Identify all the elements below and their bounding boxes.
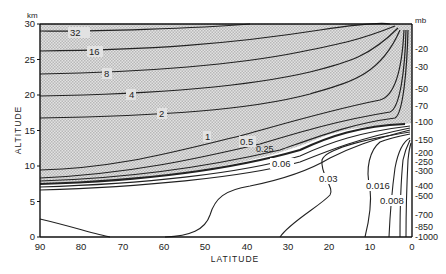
svg-text:80: 80 bbox=[76, 241, 87, 252]
svg-text:-400: -400 bbox=[415, 181, 433, 191]
y-unit-mb: mb bbox=[415, 16, 427, 25]
svg-text:-20: -20 bbox=[415, 44, 428, 54]
svg-text:15: 15 bbox=[24, 125, 35, 136]
x-axis-labels: 90 80 70 60 50 40 30 20 10 0 bbox=[35, 241, 415, 252]
contour-label: 0.5 bbox=[240, 136, 253, 147]
contour-label: 8 bbox=[104, 68, 109, 79]
svg-text:-30: -30 bbox=[415, 62, 428, 72]
contour-label: 1 bbox=[205, 131, 210, 142]
contour-label: 16 bbox=[89, 46, 100, 57]
svg-text:60: 60 bbox=[159, 241, 170, 252]
svg-text:25: 25 bbox=[24, 54, 35, 65]
svg-text:-1000: -1000 bbox=[415, 232, 438, 242]
svg-text:10: 10 bbox=[24, 160, 35, 171]
contour-label: 0.008 bbox=[380, 195, 404, 206]
svg-text:30: 30 bbox=[283, 241, 294, 252]
contour-label: 0.25 bbox=[256, 144, 274, 154]
svg-text:90: 90 bbox=[35, 241, 46, 252]
svg-text:0: 0 bbox=[409, 241, 414, 252]
x-axis-title: LATITUDE bbox=[211, 254, 259, 264]
y-axis-right-labels: mb -20 -30 -50 -70 -100 -150 -200 -250 -… bbox=[415, 16, 438, 242]
contour-label: 0.03 bbox=[319, 173, 338, 184]
svg-text:50: 50 bbox=[200, 241, 211, 252]
svg-text:40: 40 bbox=[242, 241, 253, 252]
svg-text:-100: -100 bbox=[415, 117, 433, 127]
contour-label: 0.016 bbox=[366, 180, 390, 191]
y-axis-title: ALTITUDE bbox=[13, 106, 23, 154]
contour-label: 2 bbox=[159, 108, 164, 119]
contour-label: 0.06 bbox=[272, 158, 291, 169]
svg-text:-850: -850 bbox=[415, 222, 433, 232]
svg-text:-150: -150 bbox=[415, 135, 433, 145]
svg-text:20: 20 bbox=[24, 89, 35, 100]
svg-text:70: 70 bbox=[118, 241, 129, 252]
contour-label: 4 bbox=[129, 89, 134, 100]
svg-text:-50: -50 bbox=[415, 84, 428, 94]
svg-text:-700: -700 bbox=[415, 210, 433, 220]
contour-chart: 32 16 8 4 2 1 0.5 0.25 0.06 0.03 0.016 0… bbox=[0, 0, 446, 274]
svg-text:-300: -300 bbox=[415, 166, 433, 176]
y-unit-km: km bbox=[27, 11, 38, 20]
svg-text:10: 10 bbox=[365, 241, 376, 252]
svg-text:20: 20 bbox=[324, 241, 335, 252]
svg-text:-500: -500 bbox=[415, 191, 433, 201]
contour-label: 32 bbox=[70, 27, 81, 38]
svg-text:5: 5 bbox=[30, 196, 35, 207]
y-axis-left-labels: 0 5 10 15 20 25 30 bbox=[24, 18, 35, 242]
svg-text:-70: -70 bbox=[415, 101, 428, 111]
